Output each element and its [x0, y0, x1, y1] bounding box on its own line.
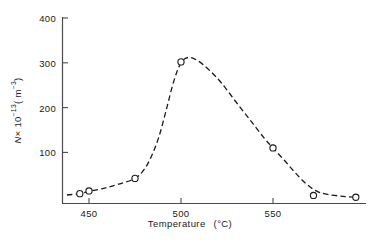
- y-axis-tick-label: 200: [20, 102, 56, 113]
- x-axis-title-unit: (°C): [214, 218, 233, 229]
- data-markers: [77, 59, 359, 201]
- x-axis-title-main: Temperature: [148, 218, 206, 229]
- x-axis-tick-label: 550: [265, 208, 282, 219]
- data-curve: [67, 57, 356, 197]
- data-point-marker: [86, 188, 92, 194]
- data-point-marker: [310, 192, 316, 198]
- y-axis-title-exponent-2: −3: [10, 81, 17, 89]
- x-axis-tick-label: 500: [173, 208, 190, 219]
- x-axis-title: Temperature(°C): [0, 218, 380, 229]
- data-point-marker: [132, 175, 138, 181]
- y-axis-title-unit-open: ( m: [12, 89, 23, 104]
- y-axis-tick-label: 100: [20, 147, 56, 158]
- y-axis-title-variable: N: [12, 136, 23, 143]
- y-axis-tick-label: 300: [20, 57, 56, 68]
- data-point-marker: [178, 59, 184, 65]
- axes: [62, 17, 366, 204]
- y-axis-title: N× 10−13( m−3): [12, 63, 23, 159]
- y-axis-ticks: [63, 18, 69, 152]
- x-axis-ticks: [89, 198, 273, 204]
- data-point-marker: [353, 194, 359, 200]
- y-axis-title-exponent-1: −13: [10, 104, 17, 116]
- y-axis-title-unit-close: ): [12, 77, 23, 80]
- y-axis-title-times: × 10: [12, 116, 23, 136]
- chart-figure: 100200300400 450500550 Temperature(°C) N…: [0, 0, 380, 242]
- y-axis-tick-label: 400: [20, 13, 56, 24]
- data-series: [67, 57, 359, 200]
- x-axis-tick-label: 450: [81, 208, 98, 219]
- data-point-marker: [270, 145, 276, 151]
- chart-canvas: [0, 0, 380, 242]
- data-point-marker: [77, 191, 83, 197]
